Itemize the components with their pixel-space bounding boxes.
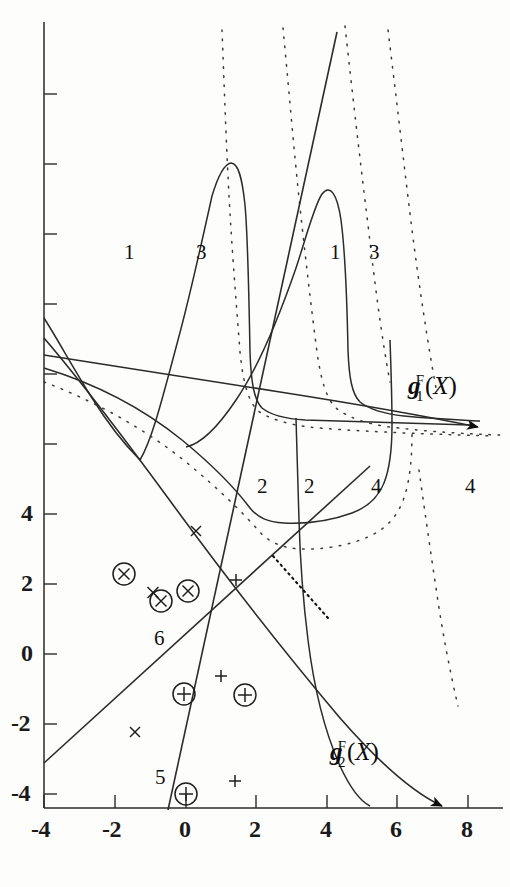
data-points — [113, 526, 256, 805]
g2-function-label: g2F(X) — [330, 738, 379, 771]
y-tick-label: 2 — [21, 570, 33, 597]
y-tick-label: -2 — [11, 710, 30, 737]
x-axis-ticks — [44, 795, 468, 808]
data-point-circled-x — [113, 563, 135, 585]
g1-argument: X — [433, 372, 448, 399]
g2-superscript: F — [338, 738, 346, 754]
plot-canvas — [0, 0, 510, 887]
x-tick-label: 6 — [390, 816, 402, 843]
data-point-plus — [229, 775, 241, 787]
decision-line-5 — [168, 32, 337, 810]
decision-curve-3-outer-a — [345, 26, 390, 382]
data-point-x — [148, 587, 159, 598]
g2-paren-close: ) — [371, 738, 379, 765]
y-axis-ticks — [44, 94, 57, 794]
decision-curve-3-outer-b — [388, 30, 436, 388]
x-tick-label: 0 — [179, 816, 191, 843]
data-point-x — [130, 727, 140, 737]
curve-label-2-right: 2 — [304, 474, 315, 499]
g1-paren-close: ) — [449, 372, 457, 399]
g1-function-label: g1F(X) — [408, 372, 457, 405]
y-tick-label: 4 — [21, 500, 33, 527]
y-tick-label: -4 — [11, 780, 30, 807]
curve-label-3-right: 3 — [369, 240, 380, 265]
decision-curve-2 — [44, 340, 392, 523]
curve-label-3-left: 3 — [196, 240, 207, 265]
decision-curve-4-second — [419, 470, 458, 706]
g2-subscript: 2 — [338, 754, 346, 770]
x-tick-label: -4 — [31, 816, 50, 843]
g2-argument: X — [355, 738, 370, 765]
x-tick-label: 8 — [461, 816, 473, 843]
x-tick-label: -2 — [102, 816, 121, 843]
line-label-6: 6 — [154, 626, 165, 651]
figure-container: -4 -2 0 2 4 6 8 4 2 0 -2 -4 1 3 1 3 2 2 … — [0, 0, 510, 887]
decision-curve-1-right — [186, 190, 480, 447]
y-tick-label: 0 — [21, 640, 33, 667]
x-tick-label: 4 — [320, 816, 332, 843]
x-tick-label: 2 — [249, 816, 261, 843]
data-point-circled-x — [177, 580, 199, 602]
decision-line-6 — [44, 466, 370, 763]
line-label-5: 5 — [155, 765, 166, 790]
g1-subscript: 1 — [416, 388, 424, 404]
curve-label-1-left: 1 — [124, 240, 135, 265]
data-point-plus — [215, 670, 227, 682]
curve-label-2-left: 2 — [257, 474, 268, 499]
data-point-circled-plus — [234, 684, 256, 706]
curve-label-4-left: 4 — [371, 474, 382, 499]
curve-label-4-right: 4 — [465, 474, 476, 499]
curve-label-1-right: 1 — [330, 240, 341, 265]
g1-superscript: F — [416, 372, 424, 388]
data-point-circled-plus — [173, 683, 195, 705]
